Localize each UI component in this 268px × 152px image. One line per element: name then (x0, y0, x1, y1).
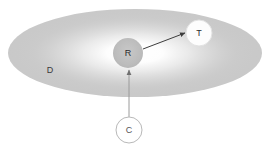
node-robot-circle[interactable] (113, 38, 143, 68)
diagram-canvas: D T R C (0, 0, 268, 152)
node-controller-circle[interactable] (116, 117, 142, 143)
node-target-circle[interactable] (186, 20, 212, 46)
diagram-svg: D T R C (0, 0, 268, 152)
